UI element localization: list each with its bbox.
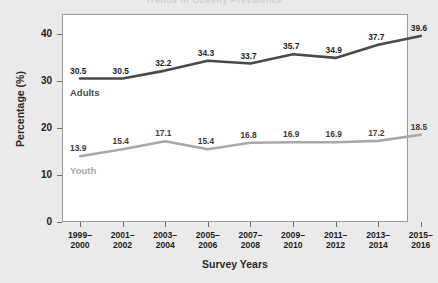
- data-label: 16.8: [240, 130, 256, 140]
- x-tick-label: 2003–2004: [142, 230, 188, 250]
- chart-title: Trends in Obesity Prevalence: [0, 0, 428, 5]
- data-label: 16.9: [283, 129, 299, 139]
- data-label: 33.7: [240, 51, 256, 61]
- data-label: 39.6: [411, 23, 427, 33]
- y-tick-label: 40: [24, 28, 52, 39]
- series-label-adults: Adults: [70, 87, 100, 98]
- x-tick-mark: [80, 222, 81, 227]
- x-tick-label: 2001–2002: [100, 230, 146, 250]
- y-tick-label: 20: [24, 122, 52, 133]
- data-label: 35.7: [283, 41, 299, 51]
- y-tick-label: 10: [24, 169, 52, 180]
- x-tick-mark: [250, 222, 251, 227]
- data-label: 13.9: [70, 143, 86, 153]
- data-label: 16.9: [326, 129, 342, 139]
- x-axis-label: Survey Years: [62, 258, 408, 270]
- data-label: 32.2: [155, 58, 171, 68]
- x-tick-label: 2009–2010: [270, 230, 316, 250]
- x-tick-mark: [293, 222, 294, 227]
- data-label: 30.5: [113, 66, 129, 76]
- x-tick-mark: [208, 222, 209, 227]
- series-label-youth: Youth: [70, 165, 96, 176]
- y-tick-label: 0: [24, 216, 52, 227]
- data-label: 37.7: [368, 32, 384, 42]
- data-label: 17.1: [155, 128, 171, 138]
- data-label: 15.4: [113, 136, 129, 146]
- x-tick-mark: [123, 222, 124, 227]
- x-tick-label: 2013–2014: [355, 230, 401, 250]
- x-tick-label: 2011–2012: [313, 230, 359, 250]
- x-tick-mark: [421, 222, 422, 227]
- data-label: 34.9: [326, 45, 342, 55]
- data-label: 30.5: [70, 66, 86, 76]
- x-tick-label: 2007–2008: [227, 230, 273, 250]
- x-tick-mark: [165, 222, 166, 227]
- x-tick-label: 2005–2006: [185, 230, 231, 250]
- series-lines: [62, 14, 408, 222]
- x-tick-mark: [378, 222, 379, 227]
- x-tick-mark: [336, 222, 337, 227]
- x-tick-label: 1999–2000: [57, 230, 103, 250]
- data-label: 17.2: [368, 128, 384, 138]
- data-label: 34.3: [198, 48, 214, 58]
- y-tick-label: 30: [24, 75, 52, 86]
- y-axis-label: Percentage (%): [14, 49, 26, 169]
- data-label: 15.4: [198, 136, 214, 146]
- x-tick-label: 2015–2016: [398, 230, 438, 250]
- data-label: 18.5: [411, 122, 427, 132]
